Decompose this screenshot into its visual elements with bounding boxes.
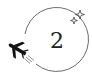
- step-number: 2: [44, 26, 70, 56]
- step-badge: 2: [0, 0, 92, 83]
